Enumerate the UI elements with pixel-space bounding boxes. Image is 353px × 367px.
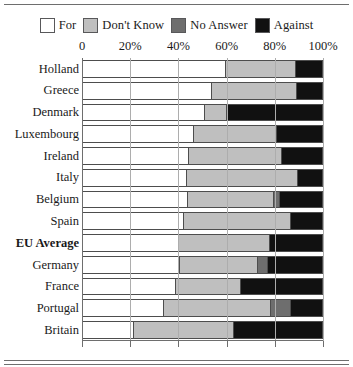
legend-entry-against: Against	[255, 18, 314, 33]
category-label: Ireland	[0, 150, 79, 163]
bar-row: Greece	[0, 80, 353, 102]
stacked-bar	[82, 299, 323, 317]
category-label: Italy	[0, 171, 79, 184]
bar-segment-don-t-know	[204, 105, 226, 121]
x-tick-label-20: 20%	[119, 40, 142, 53]
category-label: France	[0, 280, 79, 293]
x-tick-label-100: 100%	[308, 40, 337, 53]
bar-segment-don-t-know	[133, 322, 234, 338]
legend-entry-dont_know: Don't Know	[83, 18, 164, 33]
bar-row: Portugal	[0, 297, 353, 319]
stacked-bar	[82, 191, 323, 209]
bar-segment-against	[290, 213, 322, 229]
bar-segment-don-t-know	[225, 61, 295, 77]
legend-entry-for: For	[40, 18, 77, 33]
bar-segment-against	[276, 126, 322, 142]
bar-segment-no-answer	[270, 300, 290, 316]
x-axis-baseline	[82, 340, 323, 341]
gridline-100	[323, 58, 324, 341]
bar-row: EU Average	[0, 232, 353, 254]
bar-row: Italy	[0, 167, 353, 189]
bar-segment-don-t-know	[186, 170, 297, 186]
category-label: Denmark	[0, 106, 79, 119]
category-label: Germany	[0, 259, 79, 272]
category-label: Luxembourg	[0, 128, 79, 141]
bar-row: Luxembourg	[0, 123, 353, 145]
bar-segment-against	[269, 235, 322, 251]
x-tickmark-60	[227, 341, 228, 347]
gridline-40	[178, 58, 179, 341]
stacked-bar	[82, 256, 323, 274]
bar-segment-for	[83, 213, 183, 229]
legend-swatch-against	[255, 18, 270, 33]
stacked-bar	[82, 212, 323, 230]
bar-segment-against	[233, 322, 322, 338]
bar-segment-against	[290, 300, 322, 316]
chart-figure: ForDon't KnowNo AnswerAgainst 020%40%60%…	[0, 0, 353, 367]
x-tickmark-80	[275, 341, 276, 347]
stacked-bar	[82, 125, 323, 143]
bar-segment-for	[83, 61, 225, 77]
bar-segment-don-t-know	[193, 126, 276, 142]
legend-swatch-no_answer	[171, 18, 186, 33]
bar-segment-for	[83, 300, 163, 316]
bar-segment-for	[83, 170, 186, 186]
gridline-20	[130, 58, 131, 341]
category-label: Holland	[0, 63, 79, 76]
stacked-bar	[82, 321, 323, 339]
bar-row: Ireland	[0, 145, 353, 167]
legend-label-for: For	[59, 19, 77, 32]
legend-label-no_answer: No Answer	[190, 19, 248, 32]
bar-row: France	[0, 276, 353, 298]
stacked-bar	[82, 82, 323, 100]
stacked-bar	[82, 278, 323, 296]
gridline-80	[275, 58, 276, 341]
legend-entry-no_answer: No Answer	[171, 18, 248, 33]
bar-segment-for	[83, 83, 211, 99]
bar-segment-against	[296, 83, 322, 99]
legend-swatch-dont_know	[83, 18, 98, 33]
gridline-60	[227, 58, 228, 341]
x-tick-label-0: 0	[79, 40, 85, 53]
category-label: Britain	[0, 324, 79, 337]
bar-row: Spain	[0, 210, 353, 232]
bar-segment-no-answer	[257, 257, 266, 273]
bar-segment-don-t-know	[179, 257, 258, 273]
category-label: EU Average	[0, 237, 79, 250]
stacked-bar	[82, 234, 323, 252]
bar-rows: HollandGreeceDenmarkLuxembourgIrelandIta…	[0, 58, 353, 341]
bar-segment-against	[295, 61, 322, 77]
stacked-bar	[82, 169, 323, 187]
x-tick-label-60: 60%	[215, 40, 238, 53]
figure-bottom-rule-1	[4, 360, 349, 361]
x-axis-tick-labels: 020%40%60%80%100%	[0, 40, 353, 56]
category-label: Belgium	[0, 193, 79, 206]
x-tick-label-40: 40%	[167, 40, 190, 53]
bar-segment-against	[240, 279, 322, 295]
legend-swatch-for	[40, 18, 55, 33]
bar-row: Britain	[0, 319, 353, 341]
legend-label-against: Against	[274, 19, 314, 32]
bar-segment-against	[281, 148, 322, 164]
bar-segment-don-t-know	[187, 192, 273, 208]
bar-segment-for	[83, 322, 133, 338]
category-label: Spain	[0, 215, 79, 228]
bar-row: Germany	[0, 254, 353, 276]
bar-row: Denmark	[0, 102, 353, 124]
bar-segment-for	[83, 105, 204, 121]
figure-bottom-rule-2	[4, 364, 349, 365]
x-tick-label-80: 80%	[263, 40, 286, 53]
bar-segment-for	[83, 148, 188, 164]
bar-segment-don-t-know	[211, 83, 296, 99]
plot-area: HollandGreeceDenmarkLuxembourgIrelandIta…	[0, 58, 353, 350]
legend-label-dont_know: Don't Know	[102, 19, 164, 32]
x-tickmark-20	[130, 341, 131, 347]
category-label: Portugal	[0, 302, 79, 315]
x-tickmark-40	[178, 341, 179, 347]
stacked-bar	[82, 104, 323, 122]
stacked-bar	[82, 147, 323, 165]
bar-segment-against	[297, 170, 322, 186]
stacked-bar	[82, 60, 323, 78]
chart-legend: ForDon't KnowNo AnswerAgainst	[0, 14, 353, 36]
bar-row: Holland	[0, 58, 353, 80]
